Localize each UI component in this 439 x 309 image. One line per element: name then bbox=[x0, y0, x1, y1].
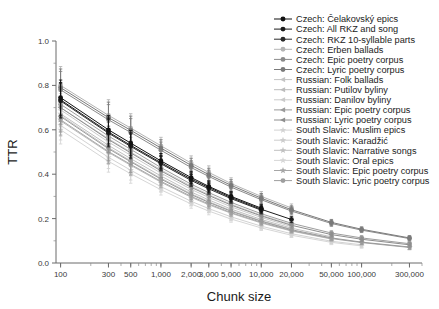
data-point-marker bbox=[280, 157, 287, 163]
x-tick-label: 100 bbox=[54, 270, 68, 279]
legend-item[interactable]: Czech: All RKZ and song bbox=[274, 24, 398, 34]
data-point-marker bbox=[259, 206, 264, 211]
data-point-marker bbox=[280, 97, 285, 102]
legend-item-label: South Slavic: Epic poetry corpus bbox=[296, 166, 429, 176]
legend-item[interactable]: South Slavic: Oral epics bbox=[274, 156, 394, 166]
data-point-marker bbox=[159, 146, 164, 151]
x-axis-title: Chunk size bbox=[207, 289, 271, 304]
x-tick-label: 300 bbox=[102, 270, 116, 279]
data-point-marker bbox=[259, 196, 264, 201]
data-point-marker bbox=[281, 67, 286, 72]
legend-item[interactable]: Czech: Lyric poetry corpus bbox=[274, 65, 405, 75]
ttr-vs-chunk-size-chart: 0.00.20.40.60.81.01003005001,0002,0003,0… bbox=[0, 0, 439, 309]
data-point-marker bbox=[289, 207, 294, 212]
data-point-marker bbox=[229, 183, 234, 188]
legend-item-label: Russian: Putilov byliny bbox=[296, 85, 388, 95]
data-point-marker bbox=[280, 127, 287, 133]
x-tick-label: 100,000 bbox=[347, 270, 376, 279]
legend-item[interactable]: Russian: Folk ballads bbox=[274, 75, 384, 85]
legend-item-label: Russian: Epic poetry corpus bbox=[296, 105, 411, 115]
legend-item-label: Czech: All RKZ and song bbox=[296, 24, 398, 34]
legend-item-label: Czech: Lyric poetry corpus bbox=[296, 65, 405, 75]
chart-figure: 0.00.20.40.60.81.01003005001,0002,0003,0… bbox=[0, 0, 439, 309]
series-group bbox=[58, 82, 294, 222]
data-point-marker bbox=[280, 117, 285, 122]
x-tick-label: 20,000 bbox=[279, 270, 304, 279]
legend-item[interactable]: Russian: Putilov byliny bbox=[274, 85, 388, 95]
data-point-marker bbox=[329, 220, 334, 225]
data-point-marker bbox=[229, 194, 234, 199]
data-point-marker bbox=[128, 141, 133, 146]
data-point-marker bbox=[106, 127, 111, 132]
legend-item-label: Czech: Erben ballads bbox=[296, 45, 384, 55]
y-axis-title: TTR bbox=[5, 139, 20, 164]
legend-item[interactable]: Russian: Lyric poetry corpus bbox=[274, 115, 412, 125]
data-point-marker bbox=[280, 167, 287, 173]
y-tick-label: 0.4 bbox=[38, 170, 50, 179]
legend-item[interactable]: South Slavic: Karadžić bbox=[274, 136, 388, 146]
data-point-marker bbox=[281, 37, 286, 42]
y-tick-label: 1.0 bbox=[38, 37, 50, 46]
legend-item[interactable]: South Slavic: Lyric poetry corpus bbox=[274, 176, 430, 186]
legend-item-label: South Slavic: Karadžić bbox=[296, 136, 388, 146]
legend-item-label: South Slavic: Muslim epics bbox=[296, 125, 406, 135]
series-line bbox=[61, 100, 292, 220]
data-point-marker bbox=[281, 27, 286, 32]
data-point-marker bbox=[280, 147, 287, 153]
data-point-marker bbox=[280, 107, 285, 112]
data-point-marker bbox=[281, 17, 286, 22]
data-point-marker bbox=[289, 217, 294, 222]
legend-item[interactable]: Czech: Čelakovský epics bbox=[274, 14, 399, 24]
legend-item-label: Czech: Čelakovský epics bbox=[296, 14, 399, 24]
legend-item[interactable]: Czech: Epic poetry corpus bbox=[274, 55, 404, 65]
x-tick-label: 500 bbox=[124, 270, 138, 279]
x-tick-label: 50,000 bbox=[319, 270, 344, 279]
legend-item[interactable]: Russian: Danilov byliny bbox=[274, 95, 391, 105]
y-tick-label: 0.6 bbox=[38, 126, 50, 135]
legend-item[interactable]: Czech: RKZ 10-syllable parts bbox=[274, 35, 415, 45]
x-tick-label: 300,000 bbox=[395, 270, 424, 279]
x-tick-label: 5,000 bbox=[221, 270, 242, 279]
legend-item[interactable]: South Slavic: Muslim epics bbox=[274, 125, 406, 135]
legend-item-label: Czech: Epic poetry corpus bbox=[296, 55, 404, 65]
legend-item-label: Russian: Lyric poetry corpus bbox=[296, 115, 412, 125]
legend-item-label: Czech: RKZ 10-syllable parts bbox=[296, 35, 415, 45]
data-point-marker bbox=[206, 184, 211, 189]
chart-legend: Czech: Čelakovský epicsCzech: All RKZ an… bbox=[274, 14, 430, 186]
data-point-marker bbox=[58, 95, 63, 100]
data-point-marker bbox=[359, 227, 364, 232]
y-tick-label: 0.0 bbox=[38, 259, 50, 268]
x-tick-label: 3,000 bbox=[199, 270, 220, 279]
legend-item-label: South Slavic: Lyric poetry corpus bbox=[296, 176, 430, 186]
legend-item-label: South Slavic: Oral epics bbox=[296, 156, 394, 166]
data-point-marker bbox=[281, 178, 286, 183]
data-point-marker bbox=[280, 77, 285, 82]
data-point-marker bbox=[206, 172, 211, 177]
data-point-marker bbox=[280, 87, 285, 92]
y-tick-label: 0.2 bbox=[38, 215, 50, 224]
legend-item[interactable]: Czech: Erben ballads bbox=[274, 45, 384, 55]
data-point-marker bbox=[189, 163, 194, 168]
x-tick-label: 1,000 bbox=[151, 270, 172, 279]
legend-item[interactable]: Russian: Epic poetry corpus bbox=[274, 105, 411, 115]
legend-item[interactable]: South Slavic: Epic poetry corpus bbox=[274, 166, 429, 176]
data-point-marker bbox=[281, 57, 286, 62]
data-point-marker bbox=[159, 159, 164, 164]
legend-item-label: South Slavic: Narrative songs bbox=[296, 146, 417, 156]
legend-item-label: Russian: Danilov byliny bbox=[296, 95, 391, 105]
data-point-marker bbox=[407, 236, 412, 241]
x-tick-label: 10,000 bbox=[249, 270, 274, 279]
data-point-marker bbox=[281, 47, 286, 52]
legend-item[interactable]: South Slavic: Narrative songs bbox=[274, 146, 417, 156]
data-point-marker bbox=[189, 175, 194, 180]
y-tick-label: 0.8 bbox=[38, 81, 50, 90]
data-point-marker bbox=[280, 137, 287, 143]
legend-item-label: Russian: Folk ballads bbox=[296, 75, 384, 85]
